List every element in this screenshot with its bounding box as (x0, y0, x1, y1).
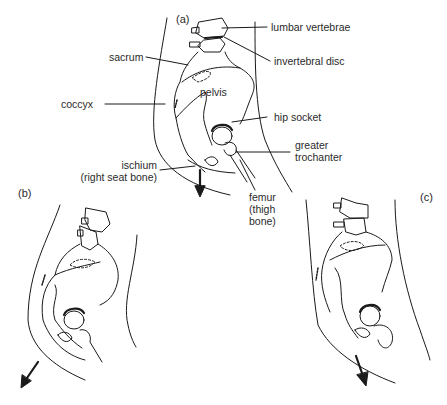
label-greater-trochanter: greater trochanter (295, 139, 342, 163)
panel-b-drawing (21, 205, 137, 388)
label-femur-line1: femur (249, 191, 276, 203)
label-lumbar-vertebrae: lumbar vertebrae (271, 21, 350, 33)
label-greater-trochanter-line1: greater (295, 139, 342, 151)
label-ischium-line1: ischium (72, 159, 157, 171)
label-ischium: ischium (right seat bone) (72, 159, 157, 183)
label-sacrum: sacrum (109, 51, 143, 63)
label-femur-line3: bone) (249, 215, 276, 227)
label-invertebral-disc: invertebral disc (274, 55, 345, 67)
label-pelvis: pelvis (200, 86, 227, 98)
panel-c-drawing (306, 198, 430, 386)
label-hip-socket: hip socket (274, 111, 321, 123)
label-coccyx: coccyx (61, 98, 93, 110)
panel-label-c: (c) (420, 191, 433, 203)
panel-a-drawing (154, 18, 292, 197)
label-femur: femur (thigh bone) (249, 191, 276, 227)
label-femur-line2: (thigh (249, 203, 276, 215)
label-greater-trochanter-line2: trochanter (295, 151, 342, 163)
panel-label-a: (a) (176, 13, 189, 25)
panel-label-b: (b) (18, 187, 31, 199)
pelvis-diagram-artwork (0, 0, 447, 405)
label-ischium-line2: (right seat bone) (72, 171, 157, 183)
